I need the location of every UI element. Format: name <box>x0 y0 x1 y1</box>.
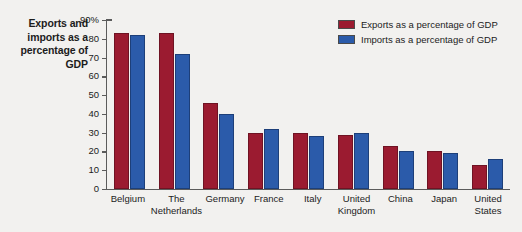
x-axis-label-line: States <box>467 205 509 217</box>
x-axis-label: UnitedStates <box>466 193 510 229</box>
bar-imports-france <box>264 129 279 189</box>
y-tick-label: 20 <box>88 147 99 157</box>
y-tick-label: 60 <box>88 72 99 82</box>
bar-group <box>241 20 286 189</box>
bar-exports-belgium <box>114 33 129 189</box>
chart-title-line-1: Exports and <box>4 17 88 31</box>
bar-imports-united-states <box>488 159 503 189</box>
bar-exports-france <box>248 133 263 189</box>
y-tick-label: 70 <box>88 53 99 63</box>
y-tick-label: 80 <box>88 34 99 44</box>
x-axis-label-line: France <box>248 193 290 205</box>
y-tick-label: 30 <box>88 128 99 138</box>
y-tick-mark <box>102 189 107 190</box>
bar-imports-the-netherlands <box>175 54 190 189</box>
x-axis-label-line: China <box>379 193 421 205</box>
x-axis-label-line: Belgium <box>107 193 149 205</box>
x-axis-label-line: United <box>467 193 509 205</box>
chart-title-line-3: percentage of <box>4 44 88 58</box>
bar-imports-italy <box>309 136 324 189</box>
y-tick-label: 40 <box>88 109 99 119</box>
x-axis-labels: BelgiumTheNetherlandsGermanyFranceItalyU… <box>106 193 510 229</box>
bar-imports-germany <box>219 114 234 189</box>
bar-imports-belgium <box>130 35 145 189</box>
x-axis-label: Japan <box>422 193 466 229</box>
x-axis-label-line: The <box>151 193 202 205</box>
chart-title-line-4: GDP <box>4 58 88 72</box>
bar-group <box>420 20 465 189</box>
bar-group <box>331 20 376 189</box>
x-axis-label: Italy <box>291 193 335 229</box>
y-tick-label: 10 <box>88 165 99 175</box>
bar-exports-the-netherlands <box>159 33 174 189</box>
x-axis-label-line: Germany <box>204 193 246 205</box>
x-axis-label: UnitedKingdom <box>335 193 379 229</box>
bar-chart: Exports and imports as a percentage of G… <box>0 0 522 232</box>
x-axis-label-line: United <box>336 193 378 205</box>
chart-title: Exports and imports as a percentage of G… <box>4 17 88 71</box>
x-axis-label: TheNetherlands <box>150 193 203 229</box>
y-tick-label: 0 <box>94 184 99 194</box>
bar-imports-china <box>399 151 414 189</box>
bar-exports-italy <box>293 133 308 189</box>
bar-exports-japan <box>427 151 442 189</box>
bar-groups <box>107 20 510 189</box>
bar-exports-germany <box>203 103 218 189</box>
y-tick-label: 50 <box>88 90 99 100</box>
x-axis-label-line: Kingdom <box>336 205 378 217</box>
bar-group <box>465 20 510 189</box>
bar-imports-japan <box>443 153 458 189</box>
x-axis-label: Belgium <box>106 193 150 229</box>
bar-imports-united-kingdom <box>354 133 369 189</box>
bar-group <box>152 20 197 189</box>
chart-title-line-2: imports as a <box>4 31 88 45</box>
y-tick-label: 90% <box>80 15 99 25</box>
x-axis-label-line: Japan <box>423 193 465 205</box>
bar-group <box>107 20 152 189</box>
bar-group <box>286 20 331 189</box>
x-axis-label-line: Netherlands <box>151 205 202 217</box>
bar-exports-united-kingdom <box>338 135 353 189</box>
x-axis-label: China <box>378 193 422 229</box>
x-axis-label: France <box>247 193 291 229</box>
plot-area: 90%80706050403020100 <box>106 20 510 190</box>
bar-group <box>197 20 242 189</box>
x-axis-label-line: Italy <box>292 193 334 205</box>
x-axis-label: Germany <box>203 193 247 229</box>
bar-group <box>376 20 421 189</box>
bar-exports-china <box>383 146 398 189</box>
bar-exports-united-states <box>472 165 487 189</box>
